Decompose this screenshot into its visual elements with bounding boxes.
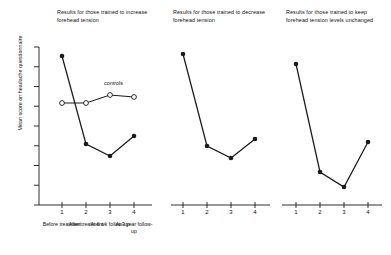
plot-area-panel-1 [0,0,166,255]
series-annotation-controls: controls [104,80,123,86]
x-tick-label-2: 2 [80,209,92,215]
series-markers-trained [294,62,371,190]
series-markers-trained [181,52,258,161]
x-tick-label-3: 3 [338,209,350,215]
x-tick-label-1: 1 [56,209,68,215]
x-tick-label-1: 1 [290,209,302,215]
x-tick-label-4: 4 [362,209,374,215]
chart-panel-increase: Results for those trained to increase fo… [0,0,166,255]
series-line-trained [296,64,368,187]
plot-area-panel-2 [166,0,278,255]
chart-panel-decrease: Results for those trained to decrease fo… [166,0,278,255]
x-tick-label-2: 2 [201,209,213,215]
series-line-trained [62,56,134,156]
plot-area-panel-3 [278,0,391,255]
x-tick-label-4: 4 [249,209,261,215]
x-tick-label-1: 1 [177,209,189,215]
series-markers-trained [60,54,137,159]
x-tick-label-3: 3 [104,209,116,215]
x-tick-label-3: 3 [225,209,237,215]
x-tick-label-2: 2 [314,209,326,215]
x-category-3year-followup: At 3 year follow-up [114,221,154,234]
chart-panel-unchanged: Results for those trained to keep forehe… [278,0,391,255]
y-axis-ticks [34,47,39,205]
series-line-trained [183,54,255,158]
x-tick-label-4: 4 [128,209,140,215]
figure-canvas: Results for those trained to increase fo… [0,0,391,255]
